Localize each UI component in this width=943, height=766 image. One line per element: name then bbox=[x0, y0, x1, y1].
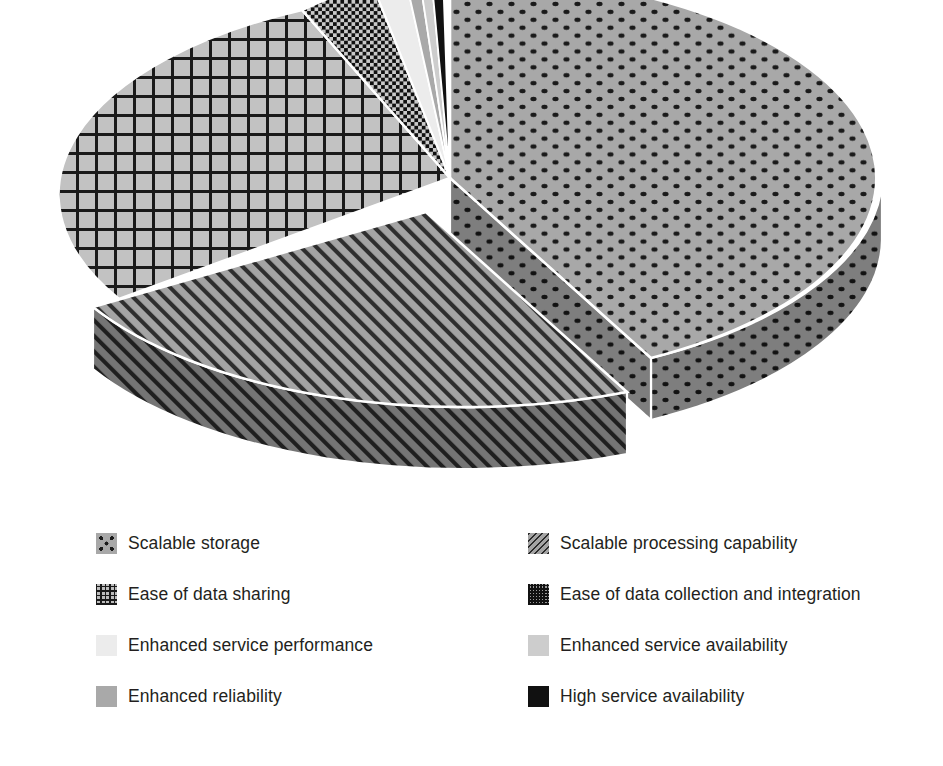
legend-label-scalable-storage: Scalable storage bbox=[128, 533, 260, 554]
legend-label-ease-of-data-sharing: Ease of data sharing bbox=[128, 584, 291, 605]
legend-item-high-service-availability[interactable]: High service availability bbox=[528, 671, 928, 722]
legend-swatch-mid-grey-icon bbox=[96, 686, 117, 707]
legend-label-ease-of-data-collection-and-integration: Ease of data collection and integration bbox=[560, 584, 861, 605]
legend-label-high-service-availability: High service availability bbox=[560, 686, 744, 707]
legend-label-enhanced-service-performance: Enhanced service performance bbox=[128, 635, 373, 656]
legend-item-ease-of-data-sharing[interactable]: Ease of data sharing bbox=[96, 569, 496, 620]
legend-label-enhanced-service-availability: Enhanced service availability bbox=[560, 635, 788, 656]
legend-label-scalable-processing-capability: Scalable processing capability bbox=[560, 533, 797, 554]
legend-item-enhanced-reliability[interactable]: Enhanced reliability bbox=[96, 671, 496, 722]
legend-swatch-checkerboard-icon bbox=[528, 584, 549, 605]
pie-chart-figure: Scalable storage Ease of data sharing En… bbox=[0, 0, 943, 766]
legend-column-right: Scalable processing capability Ease of d… bbox=[528, 518, 928, 722]
legend-label-enhanced-reliability: Enhanced reliability bbox=[128, 686, 282, 707]
legend-column-left: Scalable storage Ease of data sharing En… bbox=[96, 518, 496, 722]
legend-swatch-lightest-icon bbox=[96, 635, 117, 656]
legend-item-scalable-processing-capability[interactable]: Scalable processing capability bbox=[528, 518, 928, 569]
legend-item-enhanced-service-performance[interactable]: Enhanced service performance bbox=[96, 620, 496, 671]
chart-plot-area bbox=[0, 0, 943, 516]
legend-swatch-grid-icon bbox=[96, 584, 117, 605]
legend-swatch-diagonal-stripes-icon bbox=[528, 533, 549, 554]
legend-item-scalable-storage[interactable]: Scalable storage bbox=[96, 518, 496, 569]
legend-swatch-light-grey-icon bbox=[528, 635, 549, 656]
legend-swatch-dots-icon bbox=[96, 533, 117, 554]
pie-chart-svg bbox=[0, 0, 943, 516]
legend-item-ease-of-data-collection-and-integration[interactable]: Ease of data collection and integration bbox=[528, 569, 928, 620]
legend-item-enhanced-service-availability[interactable]: Enhanced service availability bbox=[528, 620, 928, 671]
legend-swatch-black-icon bbox=[528, 686, 549, 707]
chart-legend: Scalable storage Ease of data sharing En… bbox=[0, 518, 943, 766]
